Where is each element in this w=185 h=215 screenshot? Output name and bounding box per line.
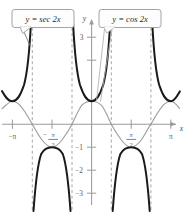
callout-leaders [23,29,113,102]
y-axis-arrowhead [89,19,94,25]
y-tick-label-neg-2: −2 [75,166,83,175]
fraction-numerator: π [52,131,56,138]
y-tick-label-neg-3: −3 [75,189,83,198]
sec-branch-lower [34,147,71,211]
sec-callout[interactable]: y = sec 2x [12,10,74,34]
sec-branch-upper [152,22,180,101]
graph-svg: y = sec 2x y = cos 2x y x −π − π 2 π 2 π… [0,0,185,215]
x-axis-label: x [179,124,184,133]
sec-branch-lower [113,147,150,211]
fraction-denominator: 2 [130,141,133,148]
x-tick-label-neg-pi: −π [8,132,16,141]
figure-canvas: y = sec 2x y = cos 2x y x −π − π 2 π 2 π… [0,0,185,215]
sec-curve-group [2,22,180,211]
fraction-denominator: 2 [52,141,55,148]
sec-branch-upper [2,22,31,101]
fraction-numerator: π [130,131,134,138]
cos-callout-label: y = cos 2x [111,14,148,24]
x-tick-label-neg-pi-over-2: − π 2 [43,130,58,148]
sec-callout-tail [20,27,31,34]
x-tick-label-pi: π [169,132,173,141]
axes-group [2,20,176,205]
y-tick-label-3: 3 [80,33,84,42]
x-tick-label-pi-over-2: π 2 [126,131,136,148]
y-tick-label-neg-1: −1 [75,143,83,152]
minus-sign: − [43,130,47,139]
cos-leader-line [101,30,113,102]
y-axis-label: y [82,14,87,23]
sec-callout-label: y = sec 2x [24,14,60,24]
